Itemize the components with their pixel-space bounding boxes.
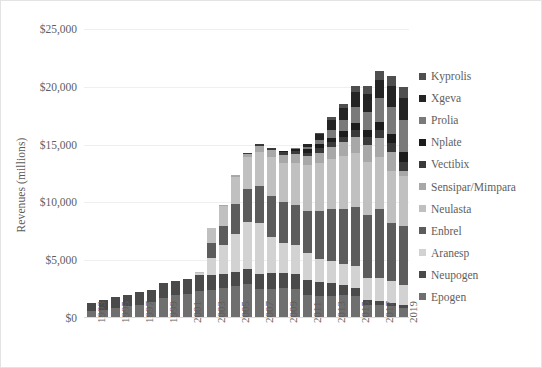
bar-segment [231, 234, 240, 272]
bar-segment [207, 243, 216, 258]
bar-segment [339, 285, 348, 295]
legend-item-label: Epogen [431, 291, 466, 303]
bar-segment [315, 153, 324, 163]
legend-item-label: Nplate [431, 136, 462, 148]
x-axis-tick-text: 1993 [95, 301, 107, 323]
bar-segment [351, 288, 360, 296]
bar-segment [387, 281, 396, 303]
legend-swatch-icon [419, 249, 426, 256]
x-axis-tick-text: 2003 [215, 301, 227, 323]
bar [291, 148, 300, 318]
bar-segment [267, 150, 276, 157]
bar [315, 133, 324, 318]
bar-segment [387, 223, 396, 281]
bar-segment [351, 137, 360, 153]
bar-segment [207, 275, 216, 290]
x-axis-tick-text: 1997 [143, 301, 155, 323]
bar [231, 175, 240, 318]
bar-segment [363, 112, 372, 130]
legend-item-label: Neupogen [431, 269, 478, 281]
bar-segment [231, 204, 240, 234]
x-axis-tick-text: 2015 [359, 301, 371, 323]
legend-item-label: Aranesp [431, 247, 469, 259]
bar-segment [315, 259, 324, 282]
bar-segment [363, 278, 372, 300]
x-axis-tick-text: 1995 [119, 301, 131, 323]
bar-segment [219, 245, 228, 274]
bar-segment [291, 163, 300, 205]
y-axis-title-text: Revenues (millions) [15, 138, 27, 233]
bar-segment [351, 153, 360, 207]
bar [279, 151, 288, 318]
bar-segment [291, 274, 300, 289]
legend-item[interactable]: Xgeva [419, 87, 541, 109]
x-axis-tick-text: 2007 [263, 301, 275, 323]
legend-item[interactable]: Kyprolis [419, 65, 541, 87]
bar-segment [387, 107, 396, 134]
bar-segment [399, 120, 408, 151]
bar-segment [387, 76, 396, 86]
legend-item[interactable]: Prolia [419, 109, 541, 131]
bar [339, 104, 348, 318]
legend-swatch-icon [419, 293, 426, 300]
legend-swatch-icon [419, 227, 426, 234]
legend-item[interactable]: Neupogen [419, 264, 541, 286]
legend-item[interactable]: Enbrel [419, 220, 541, 242]
bar-segment [219, 274, 228, 288]
y-axis-tick-label: $0 [66, 312, 78, 324]
y-axis-tick-label: $25,000 [40, 23, 77, 35]
bar-segment [399, 162, 408, 171]
legend-item[interactable]: Nplate [419, 131, 541, 153]
bar-segment [255, 152, 264, 187]
bar-segment [399, 87, 408, 99]
bar-segment [195, 275, 204, 291]
bar-segment [375, 80, 384, 98]
bar-segment [243, 157, 252, 188]
bar [351, 86, 360, 318]
x-axis-tick-text: 1999 [167, 301, 179, 323]
bar [303, 144, 312, 318]
chart-legend: KyprolisXgevaProliaNplateVectibixSensipa… [419, 65, 541, 308]
bar-segment [291, 245, 300, 274]
bar-segment [351, 207, 360, 266]
bar-segment [351, 92, 360, 107]
legend-item-label: Neulasta [431, 203, 471, 215]
bar-segment [363, 94, 372, 111]
legend-item[interactable]: Sensipar/Mimpara [419, 175, 541, 197]
legend-item[interactable]: Neulasta [419, 198, 541, 220]
bar-segment [291, 205, 300, 245]
legend-swatch-icon [419, 139, 426, 146]
bar-segment [303, 156, 312, 165]
bar [267, 148, 276, 318]
bar-segment [267, 273, 276, 289]
legend-item[interactable]: Vectibix [419, 153, 541, 175]
legend-item-label: Enbrel [431, 225, 462, 237]
bar-segment [375, 122, 384, 130]
bar-segment [375, 138, 384, 158]
bar-segment [267, 196, 276, 238]
legend-swatch-icon [419, 271, 426, 278]
x-axis-tick-text: 2017 [383, 301, 395, 323]
legend-item-label: Sensipar/Mimpara [431, 181, 516, 193]
bar-segment [399, 98, 408, 120]
bar-segment [303, 280, 312, 295]
legend-swatch-icon [419, 117, 426, 124]
bar-segment [327, 261, 336, 283]
x-axis-tick-text: 2009 [287, 301, 299, 323]
legend-swatch-icon [419, 205, 426, 212]
bar [399, 87, 408, 318]
legend-item[interactable]: Aranesp [419, 242, 541, 264]
bar-segment [399, 152, 408, 162]
x-axis-tick-text: 2001 [191, 301, 203, 323]
y-axis-tick-label: $5,000 [45, 254, 77, 266]
x-axis-tick-text: 2013 [335, 301, 347, 323]
bar-segment [303, 253, 312, 280]
bar [363, 86, 372, 318]
bar [387, 76, 396, 318]
bar-segment [303, 211, 312, 254]
bar-segment [363, 145, 372, 162]
bar-segment [291, 154, 300, 163]
bar-segment [387, 86, 396, 107]
legend-item[interactable]: Epogen [419, 286, 541, 308]
bar [375, 71, 384, 318]
